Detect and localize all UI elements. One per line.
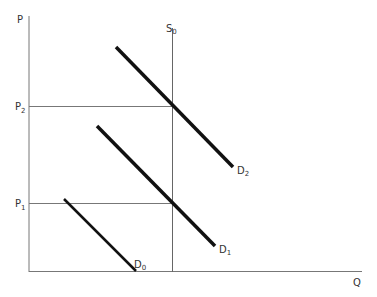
d2-label: D2	[237, 165, 249, 178]
demand-curve-d0	[64, 199, 136, 271]
p2-label: P2	[15, 101, 26, 115]
d1-label: D1	[219, 244, 231, 257]
supply-demand-chart: P Q S0 P2 P1 D2 D1 D0	[0, 0, 377, 297]
p1-label: P1	[15, 198, 26, 212]
s0-label: S0	[166, 23, 177, 36]
y-axis-label: P	[17, 14, 23, 25]
demand-curve-d1	[97, 126, 215, 246]
x-axis-label: Q	[353, 277, 361, 288]
